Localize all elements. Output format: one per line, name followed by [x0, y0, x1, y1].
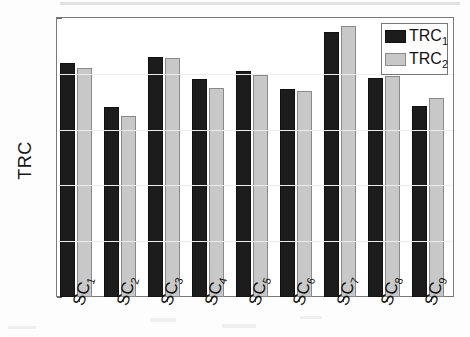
bar-sc3-trc2	[165, 58, 180, 297]
legend-swatch-trc2	[385, 53, 406, 66]
scan-speck	[8, 326, 36, 329]
legend-label-trc1: TRC1	[409, 27, 448, 45]
bar-sc5-trc1	[236, 71, 251, 297]
gridline	[57, 185, 453, 186]
bar-sc9-trc2	[429, 98, 444, 297]
y-axis-tick-mark	[57, 297, 62, 298]
bar-sc7-trc1	[324, 32, 339, 297]
scan-speck	[222, 324, 256, 328]
scan-speck	[150, 318, 176, 322]
legend-label-trc2: TRC2	[409, 50, 448, 68]
y-axis-title: TRC	[15, 141, 36, 180]
bar-sc9-trc1	[412, 106, 427, 297]
chart-legend[interactable]: TRC1 TRC2	[381, 23, 448, 75]
bar-sc8-trc1	[368, 78, 383, 297]
gridline	[57, 241, 453, 242]
legend-swatch-trc1	[385, 30, 406, 43]
bar-sc1-trc1	[60, 63, 75, 297]
bar-sc4-trc2	[209, 88, 224, 297]
bar-sc1-trc2	[77, 68, 92, 297]
bar-sc4-trc1	[192, 79, 207, 297]
bar-sc2-trc1	[104, 107, 119, 297]
gridline	[57, 130, 453, 131]
bar-sc6-trc1	[280, 89, 295, 297]
bar-sc3-trc1	[148, 57, 163, 297]
bar-sc6-trc2	[297, 91, 312, 297]
bar-sc2-trc2	[121, 116, 136, 297]
y-axis-title-wrap: TRC	[30, 0, 31, 337]
scan-artifact-line	[60, 2, 460, 5]
scan-speck	[300, 316, 322, 319]
bar-sc7-trc2	[341, 26, 356, 297]
chart-figure: 00.20.40.60.81 TRC SC1SC2SC3SC4SC5SC6SC7…	[0, 0, 470, 337]
